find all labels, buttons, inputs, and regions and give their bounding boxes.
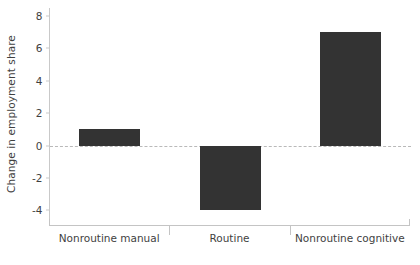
- x-axis-divider: [169, 225, 170, 235]
- y-tick-label: 0: [36, 140, 50, 151]
- x-tick-label: Routine: [209, 232, 249, 244]
- x-tick-label: Nonroutine cognitive: [295, 232, 405, 244]
- x-axis-left-cap: [49, 219, 50, 226]
- y-tick-label: -4: [32, 205, 49, 216]
- y-tick-label: 8: [36, 11, 50, 22]
- x-axis-right-cap: [409, 219, 410, 226]
- bar-chart-figure: Change in employment share 86420-2-4 Non…: [0, 0, 420, 265]
- bar: [200, 146, 261, 211]
- x-axis-line: [49, 225, 410, 226]
- y-tick-label: 2: [36, 108, 50, 119]
- plot-area: 86420-2-4: [50, 8, 411, 225]
- x-axis-divider: [290, 225, 291, 235]
- y-tick-label: 4: [36, 76, 50, 87]
- y-tick-label: -2: [32, 173, 49, 184]
- bar: [79, 129, 140, 145]
- y-tick-label: 6: [36, 43, 50, 54]
- bar: [320, 32, 381, 145]
- y-axis-title: Change in employment share: [2, 0, 20, 228]
- y-axis-title-text: Change in employment share: [5, 35, 17, 193]
- x-tick-label: Nonroutine manual: [59, 232, 160, 244]
